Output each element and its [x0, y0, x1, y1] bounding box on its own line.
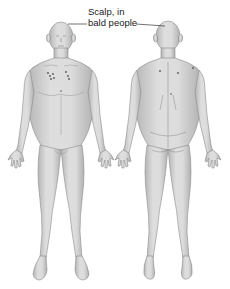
back-left-leg — [145, 145, 168, 258]
back-right-leg — [168, 145, 191, 258]
front-body — [8, 22, 114, 280]
front-right-leg — [61, 145, 84, 258]
front-right-arm — [88, 70, 106, 153]
back-left-arm — [123, 70, 141, 153]
front-head — [49, 22, 73, 52]
anatomy-figure — [0, 0, 230, 289]
scalp-label-line1: Scalp, in — [88, 6, 137, 17]
back-right-arm — [195, 70, 213, 153]
scalp-label-line2: bald people — [88, 17, 137, 28]
front-left-arm — [16, 70, 34, 153]
front-left-leg — [38, 145, 61, 258]
scalp-label: Scalp, in bald people — [88, 6, 137, 28]
